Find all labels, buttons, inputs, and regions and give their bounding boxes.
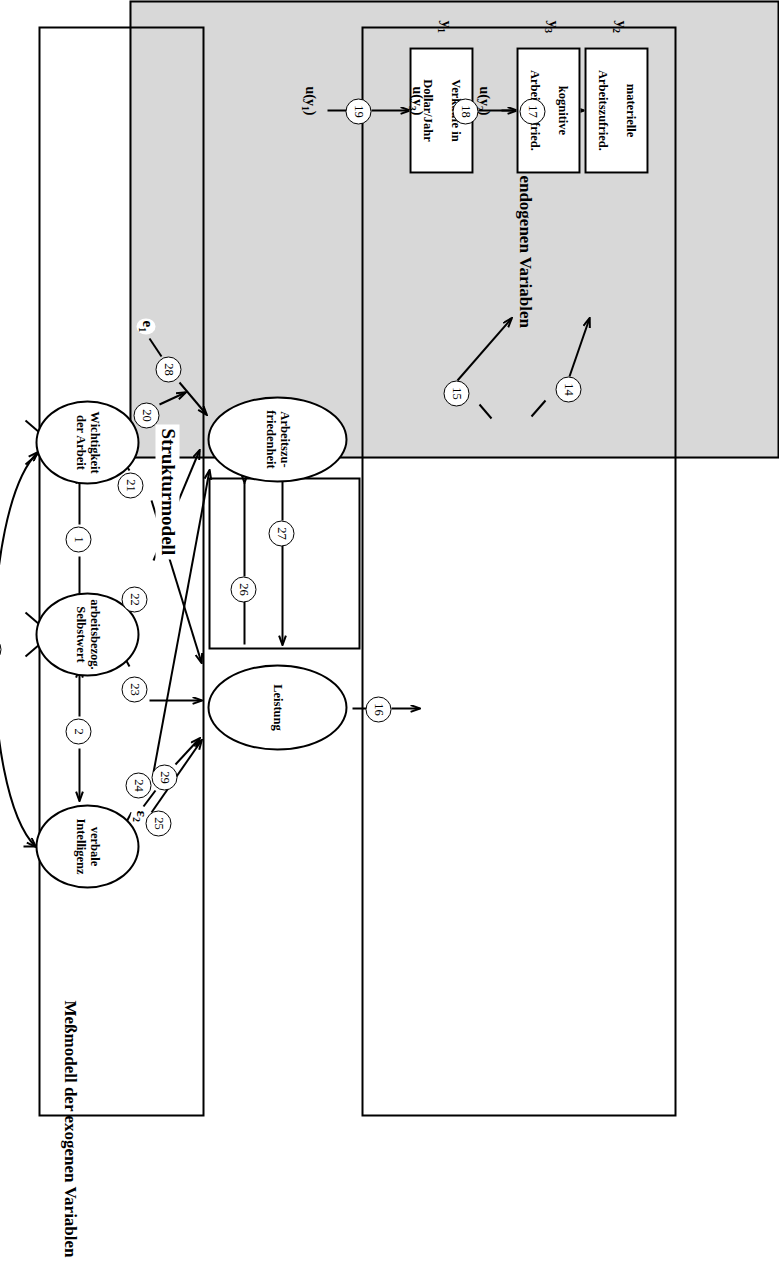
path-number-2[interactable]: 2 [65,718,91,744]
variable-tag-y3: y3 [542,20,561,33]
variable-tag-y2: y2 [610,20,629,33]
latent-arbeitszufriedenheit[interactable]: Arbeitszu-friedenheit [207,396,347,482]
path-number-29[interactable]: 29 [151,764,177,790]
indicator-box-y2[interactable]: materielleArbeitszufried. [584,47,648,173]
structural-model-label: Strukturmodell [155,424,179,559]
variable-tag-y1: y1 [435,20,454,33]
path-number-15[interactable]: 15 [443,380,469,406]
disturbance-label-y1: u(y1) [299,86,317,115]
path-number-28[interactable]: 28 [155,356,181,382]
latent-leistung[interactable]: Leistung [207,664,347,750]
path-number-21[interactable]: 21 [117,472,143,498]
path-number-23[interactable]: 23 [121,676,147,702]
error-term-e1: e1 [136,318,155,334]
disturbance-label-y3: u(y3) [406,86,424,115]
path-number-17[interactable]: 17 [519,98,545,124]
latent-verbale-intelligenz[interactable]: verbaleIntelligenz [35,804,139,888]
figure-canvas: Strukturmodell Meßmodell der endogenen V… [0,0,779,1266]
path-number-25[interactable]: 25 [145,810,171,836]
latent-wichtigkeit-der-arbeit[interactable]: Wichtigkeitder Arbeit [35,400,139,484]
rotated-diagram: Strukturmodell Meßmodell der endogenen V… [0,0,779,1266]
path-number-19[interactable]: 19 [345,98,371,124]
path-number-27[interactable]: 27 [268,520,294,546]
path-number-24[interactable]: 24 [125,772,151,798]
path-number-26[interactable]: 26 [230,576,256,602]
path-number-14[interactable]: 14 [555,376,581,402]
path-number-18[interactable]: 18 [452,98,478,124]
path-number-22[interactable]: 22 [121,586,147,612]
path-number-16[interactable]: 16 [365,696,391,722]
path-number-1[interactable]: 1 [65,526,91,552]
